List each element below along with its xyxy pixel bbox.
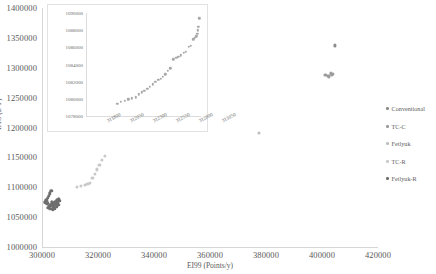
- inset-y-tick-label: 1082000: [66, 79, 87, 84]
- y-axis-title: TAC ($/Y): [0, 98, 3, 131]
- data-point: [75, 186, 78, 189]
- x-tick-label: 300000: [29, 250, 55, 260]
- y-tick-label: 1300000: [7, 63, 42, 73]
- y-tick-label: 1150000: [7, 152, 42, 162]
- x-tick-label: 380000: [253, 250, 279, 260]
- inset-data-point: [194, 37, 196, 39]
- x-tick-label: 340000: [141, 250, 167, 260]
- inset-data-point: [134, 96, 136, 98]
- y-tick-label: 1100000: [7, 182, 42, 192]
- inset-data-point: [197, 29, 199, 31]
- inset-data-point: [116, 102, 118, 104]
- legend-item-label: Fetlyuk-R: [392, 175, 417, 182]
- legend-item-label: Conventional: [392, 105, 425, 112]
- inset-data-point: [159, 78, 161, 80]
- inset-data-point: [149, 86, 151, 88]
- inset-y-tick-label: 1084000: [66, 62, 87, 67]
- legend-marker-icon: [386, 107, 389, 110]
- inset-plot-area: [86, 13, 201, 116]
- legend-marker-icon: [386, 142, 389, 145]
- data-point: [101, 158, 104, 161]
- inset-data-point: [197, 26, 199, 28]
- inset-data-point: [143, 90, 145, 92]
- inset-data-point: [154, 81, 156, 83]
- legend-item-label: TC-C: [392, 123, 406, 130]
- legend-item-fetlyuk-r[interactable]: Fetlyuk-R: [386, 170, 436, 188]
- inset-data-point: [120, 101, 122, 103]
- inset-data-point: [127, 98, 129, 100]
- main-x-axis-line: [42, 247, 378, 248]
- inset-chart: 1078000108000010820001084000108600010880…: [47, 4, 208, 132]
- y-tick-label: 1350000: [7, 33, 42, 43]
- data-point: [333, 44, 336, 47]
- inset-y-tick-label: 1090000: [66, 11, 87, 16]
- x-tick-label: 400000: [309, 250, 335, 260]
- x-tick-label: 420000: [365, 250, 391, 260]
- legend-item-label: TC-R: [392, 158, 406, 165]
- legend-item-tc-r[interactable]: TC-R: [386, 153, 436, 171]
- y-tick-label: 1050000: [7, 212, 42, 222]
- legend-marker-icon: [386, 125, 389, 128]
- data-point: [50, 189, 53, 192]
- inset-data-point: [180, 54, 182, 56]
- legend-item-tc-c[interactable]: TC-C: [386, 118, 436, 136]
- y-tick-label: 1400000: [7, 3, 42, 13]
- inset-data-point: [162, 76, 164, 78]
- x-axis-title: EI99 (Points/y): [187, 261, 233, 270]
- inset-data-point: [138, 93, 140, 95]
- data-point: [257, 132, 260, 135]
- legend-marker-icon: [386, 177, 389, 180]
- data-point: [332, 72, 335, 75]
- y-tick-label: 1200000: [7, 123, 42, 133]
- legend-marker-icon: [386, 160, 389, 163]
- legend-item-conventional[interactable]: Conventional: [386, 100, 436, 118]
- inset-data-point: [131, 97, 133, 99]
- inset-data-point: [123, 100, 125, 102]
- data-point: [91, 177, 94, 180]
- chart-container: TAC ($/Y) EI99 (Points/y) 10000001050000…: [0, 0, 436, 274]
- inset-y-tick-label: 1080000: [66, 96, 87, 101]
- y-tick-label: 1250000: [7, 93, 42, 103]
- inset-data-point: [169, 67, 171, 69]
- legend-item-label: Fetlyuk: [392, 140, 411, 147]
- inset-y-tick-label: 1078000: [66, 114, 87, 119]
- data-point: [103, 155, 106, 158]
- inset-data-point: [185, 50, 187, 52]
- data-point: [98, 163, 101, 166]
- inset-data-point: [190, 44, 192, 46]
- data-point: [95, 168, 98, 171]
- legend-item-fetlyuk[interactable]: Fetlyuk: [386, 135, 436, 153]
- inset-y-tick-label: 1086000: [66, 45, 87, 50]
- x-tick-label: 320000: [85, 250, 111, 260]
- inset-data-point: [198, 17, 200, 19]
- data-point: [88, 181, 91, 184]
- inset-data-point: [164, 73, 166, 75]
- data-point: [58, 199, 61, 202]
- inset-y-tick-label: 1088000: [66, 28, 87, 33]
- inset-data-point: [167, 70, 169, 72]
- legend: ConventionalTC-CFetlyukTC-RFetlyuk-R: [386, 100, 436, 188]
- inset-data-point: [146, 87, 148, 89]
- data-point: [93, 173, 96, 176]
- inset-data-point: [151, 83, 153, 85]
- x-tick-label: 360000: [197, 250, 223, 260]
